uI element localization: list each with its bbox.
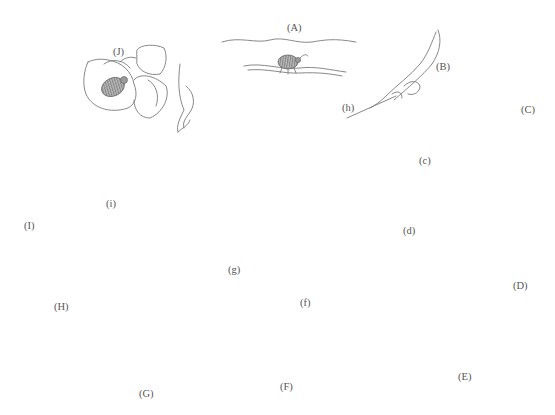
label-stage-f: (F) [280,382,293,393]
label-inset-f: (f) [300,298,311,309]
life-cycle-diagram: (J) (A) (B) (C) (D) (E) (F) (G) (H) (I) … [0,0,555,415]
label-stage-a: (A) [287,23,302,34]
label-inset-g: (g) [228,265,240,276]
label-stage-j: (J) [113,47,124,58]
label-stage-e: (E) [458,372,471,383]
stage-j-flower-with-adult [84,45,194,132]
label-stage-h: (H) [54,302,69,313]
label-inset-h: (h) [342,103,354,114]
label-inset-i: (i) [106,199,116,210]
label-stage-b: (B) [436,62,450,73]
label-inset-c: (c) [419,156,431,167]
label-stage-g: (G) [139,389,154,400]
diagram-artwork [0,0,555,415]
label-stage-i: (I) [24,221,35,232]
stage-a-adult-on-pod [222,39,356,76]
stage-b-opened-pod [347,30,440,118]
label-stage-c: (C) [521,105,535,116]
label-inset-d: (d) [403,226,415,237]
label-stage-d: (D) [513,281,528,292]
